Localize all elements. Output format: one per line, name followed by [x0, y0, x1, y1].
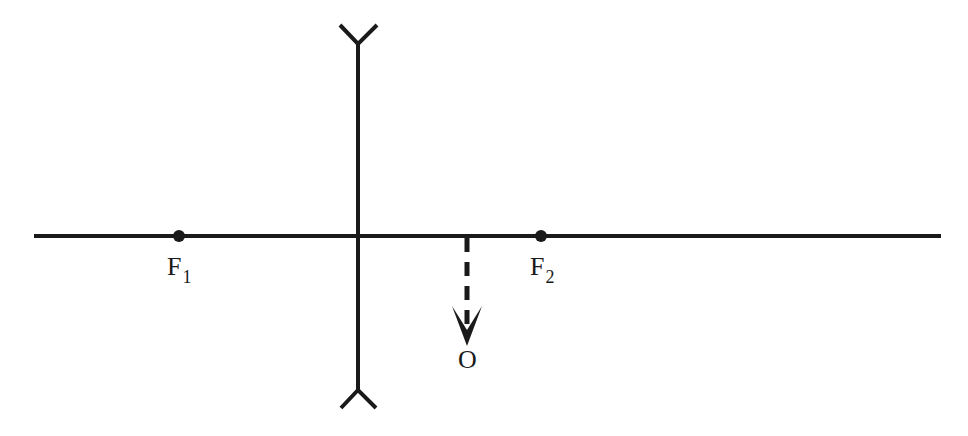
focal-point-f1-label: F1	[167, 252, 191, 282]
focal-point-f2-dot	[535, 230, 547, 242]
object-arrow	[452, 238, 482, 346]
object-label: O	[458, 345, 477, 375]
focal-point-f2-label: F2	[530, 252, 554, 282]
diverging-lens	[340, 25, 377, 408]
lens-bottom-fork-icon	[341, 390, 376, 408]
lens-diagram	[0, 0, 968, 436]
lens-top-fork-icon	[340, 25, 377, 44]
focal-point-f1-dot	[173, 230, 185, 242]
